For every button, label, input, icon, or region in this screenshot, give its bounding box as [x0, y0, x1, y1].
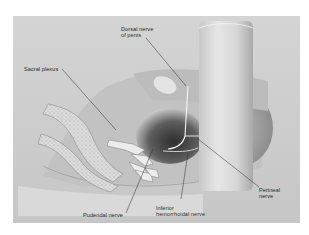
label-inferior-hemorrhoidal-nerve: Inferior hemorrhoidal nerve — [156, 205, 205, 218]
label-pudendal-nerve: Pudendal nerve — [83, 212, 123, 218]
label-dorsal-nerve-of-penis: Dorsal nerve of penis — [121, 26, 153, 39]
label-perineal-nerve: Perineal nerve — [259, 187, 280, 200]
label-sacral-plexus: Sacral plexus — [24, 66, 58, 72]
illustration-artwork — [13, 16, 300, 223]
anatomical-figure: Dorsal nerve of penis Sacral plexus Peri… — [13, 16, 300, 223]
